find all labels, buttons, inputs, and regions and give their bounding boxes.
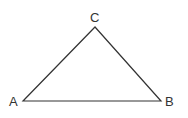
vertex-label-c: C: [90, 10, 99, 25]
vertex-label-a: A: [9, 94, 18, 109]
triangle-abc: [23, 27, 161, 101]
triangle-diagram: C A B: [0, 0, 188, 118]
vertex-label-b: B: [165, 94, 174, 109]
